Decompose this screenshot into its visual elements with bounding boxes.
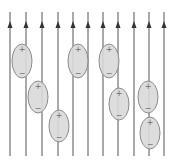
arrow-up-icon: [101, 21, 106, 28]
field-line: [116, 12, 121, 156]
field-diagram-canvas: +−+−+−+−+−+−+−+−: [0, 0, 174, 160]
negative-charge-sign: −: [145, 104, 152, 113]
arrow-up-icon: [71, 21, 76, 28]
arrow-up-icon: [116, 21, 121, 28]
field-line: [132, 12, 137, 156]
arrow-up-icon: [24, 21, 29, 28]
positive-charge-sign: +: [56, 111, 63, 120]
positive-charge-sign: +: [19, 45, 26, 54]
polarized-molecule: +−: [28, 81, 48, 113]
field-line: [86, 12, 91, 156]
polarized-molecule: +−: [49, 110, 69, 142]
negative-charge-sign: −: [106, 69, 113, 78]
polarized-molecule: +−: [12, 44, 32, 78]
positive-charge-sign: +: [106, 45, 113, 54]
arrow-up-icon: [162, 21, 167, 28]
arrow-up-icon: [56, 21, 61, 28]
negative-charge-sign: −: [19, 69, 26, 78]
field-line: [71, 12, 76, 156]
polarized-molecule: +−: [109, 88, 129, 120]
polarized-molecule: +−: [140, 117, 160, 149]
arrow-up-icon: [132, 21, 137, 28]
arrow-up-icon: [40, 21, 45, 28]
negative-charge-sign: −: [116, 111, 123, 120]
polarized-molecule: +−: [99, 44, 119, 78]
negative-charge-sign: −: [56, 133, 63, 142]
molecules: +−+−+−+−+−+−+−+−: [12, 44, 160, 149]
field-diagram: +−+−+−+−+−+−+−+−: [0, 0, 174, 160]
arrow-up-icon: [86, 21, 91, 28]
positive-charge-sign: +: [145, 82, 152, 91]
negative-charge-sign: −: [35, 104, 42, 113]
positive-charge-sign: +: [35, 82, 42, 91]
negative-charge-sign: −: [147, 140, 154, 149]
polarized-molecule: +−: [138, 81, 158, 113]
positive-charge-sign: +: [147, 118, 154, 127]
arrow-up-icon: [147, 21, 152, 28]
arrow-up-icon: [8, 21, 13, 28]
positive-charge-sign: +: [75, 45, 82, 54]
negative-charge-sign: −: [75, 69, 82, 78]
field-line: [8, 12, 13, 156]
polarized-molecule: +−: [68, 44, 88, 78]
field-line: [101, 12, 106, 156]
field-line: [162, 12, 167, 156]
field-line: [24, 12, 29, 156]
positive-charge-sign: +: [116, 89, 123, 98]
